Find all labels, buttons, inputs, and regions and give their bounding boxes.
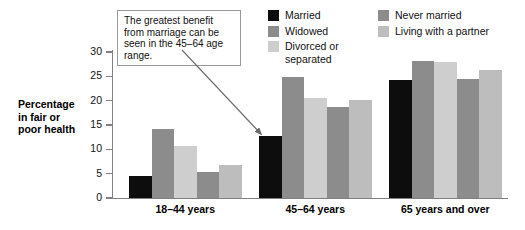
bar [434,62,457,198]
legend-item: Never married [378,9,489,22]
bar-group [129,52,242,198]
annotation-callout-text: The greatest benefit from marriage can b… [124,15,235,61]
legend: MarriedWidowedDivorced or separated Neve… [268,9,520,71]
y-axis-tick-label: 0 [76,191,102,203]
legend-swatch-icon [268,41,279,52]
bar-group [389,52,502,198]
y-axis-tick-label: 30 [76,45,102,57]
bar [389,80,412,198]
y-axis-tick [106,100,112,101]
legend-column-right: Never marriedLiving with a partner [378,9,489,40]
y-axis-tick [106,173,112,174]
bar-chart: Percentage in fair or poor health 051015… [0,0,525,230]
y-axis-tick [106,76,112,77]
y-axis-tick [106,124,112,125]
legend-item: Divorced or separated [268,40,339,65]
bar [219,165,242,198]
bar [457,79,480,198]
y-axis-tick [106,197,112,198]
y-axis-tick-label: 15 [76,118,102,130]
legend-swatch-icon [268,10,279,21]
bar [479,70,502,198]
bar [327,107,350,198]
legend-item: Living with a partner [378,25,489,38]
bar [349,100,372,198]
y-axis-tick-label: 10 [76,142,102,154]
legend-label: Widowed [285,25,328,38]
legend-column-left: MarriedWidowedDivorced or separated [268,9,339,68]
bar [197,172,220,198]
x-axis-line [112,198,508,199]
y-axis-tick-label: 5 [76,167,102,179]
x-axis-group-label: 65 years and over [385,203,505,215]
legend-item: Married [268,9,339,22]
bar-group [259,52,372,198]
legend-swatch-icon [268,26,279,37]
legend-label: Married [285,9,321,22]
bar [412,61,435,198]
legend-swatch-icon [378,26,389,37]
bar [174,146,197,198]
y-axis-tick-label: 25 [76,69,102,81]
x-axis-group-label: 45–64 years [255,203,375,215]
bar [129,176,152,198]
y-axis-tick-label: 20 [76,94,102,106]
x-axis-group-label: 18–44 years [125,203,245,215]
annotation-callout: The greatest benefit from marriage can b… [117,10,241,66]
bar [304,98,327,198]
plot-area [113,52,505,198]
y-axis-tick [106,149,112,150]
y-axis-tick [106,51,112,52]
legend-swatch-icon [378,10,389,21]
legend-label: Living with a partner [395,25,489,38]
legend-item: Widowed [268,25,339,38]
bar [282,77,305,198]
bar [259,136,282,198]
bar [152,129,175,198]
legend-label: Divorced or separated [285,40,339,65]
legend-label: Never married [395,9,462,22]
